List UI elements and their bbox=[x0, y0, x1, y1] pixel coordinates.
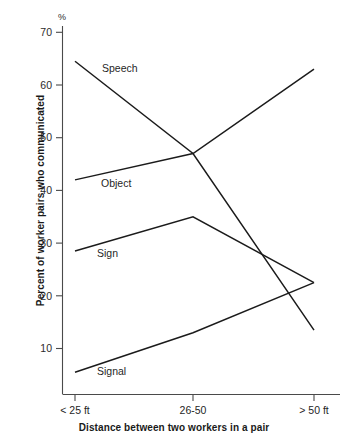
x-axis-title: Distance between two workers in a pair bbox=[0, 422, 348, 433]
y-tick-label-10: 10 bbox=[40, 342, 52, 354]
y-axis-title: Percent of worker pairs who communicated bbox=[35, 71, 46, 331]
y-tick-label-70: 70 bbox=[40, 26, 52, 38]
series-label-speech: Speech bbox=[102, 62, 138, 74]
series-line-signal bbox=[75, 283, 314, 373]
y-axis-unit-label: % bbox=[58, 12, 66, 22]
x-tick-label-1: 26-50 bbox=[180, 404, 207, 416]
series-label-sign: Sign bbox=[97, 247, 118, 259]
chart-canvas: 70 60 50 40 30 20 10 % < 25 ft 26-50 > 5… bbox=[0, 0, 348, 447]
x-tick-label-2: > 50 ft bbox=[299, 404, 329, 416]
series-label-object: Object bbox=[101, 177, 131, 189]
series-line-speech bbox=[75, 61, 314, 330]
x-tick-label-0: < 25 ft bbox=[60, 404, 90, 416]
line-chart: 70 60 50 40 30 20 10 % < 25 ft 26-50 > 5… bbox=[0, 0, 348, 447]
series-label-signal: Signal bbox=[97, 365, 126, 377]
series-line-object bbox=[75, 69, 314, 180]
